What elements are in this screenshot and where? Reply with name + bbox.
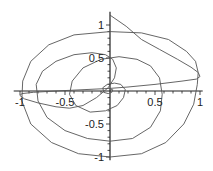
x-tick-label: -1 xyxy=(15,96,25,108)
x-tick-label: 0.5 xyxy=(147,96,162,108)
x-tick-label: -0.5 xyxy=(56,96,75,108)
y-tick-label: 1 xyxy=(98,19,104,31)
y-tick-label: -0.5 xyxy=(85,118,104,130)
plot-area: -1-0.50.5110.5-0.5-1 xyxy=(0,0,213,171)
y-tick-label: 0.5 xyxy=(89,52,104,64)
y-tick-label: -1 xyxy=(94,151,104,163)
axes xyxy=(14,12,203,161)
x-tick-label: 1 xyxy=(197,96,203,108)
